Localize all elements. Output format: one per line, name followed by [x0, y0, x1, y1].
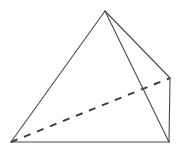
square-pyramid-diagram — [0, 0, 179, 151]
figure-canvas — [0, 0, 179, 151]
